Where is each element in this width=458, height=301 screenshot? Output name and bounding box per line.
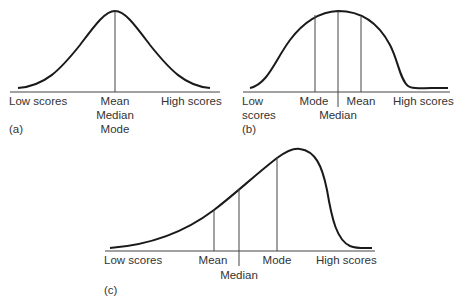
panel-c-skewed-curve [110, 149, 372, 248]
panel-b-mean-label: Mean [347, 95, 376, 108]
panel-c-graph [105, 149, 375, 266]
panel-c-tag: (c) [104, 284, 117, 297]
panel-b-tag: (b) [242, 123, 256, 136]
panel-b-low-label-line2: scores [242, 109, 276, 122]
panel-b-low-label-line1: Low [242, 95, 263, 108]
panel-a-low-label: Low scores [9, 95, 67, 108]
panel-b-median-label: Median [319, 109, 357, 122]
panel-b-skewed-curve [250, 11, 448, 88]
panel-b-high-label: High scores [393, 95, 454, 108]
panel-a-mode-label: Mode [101, 123, 130, 136]
panel-a-median-label: Median [96, 109, 134, 122]
panel-a-normal-curve [18, 11, 210, 88]
distribution-diagrams [0, 0, 458, 301]
panel-a-tag: (a) [9, 123, 23, 136]
panel-c-low-label: Low scores [104, 254, 162, 267]
panel-c-high-label: High scores [316, 254, 377, 267]
panel-c-mode-label: Mode [263, 254, 292, 267]
panel-a-graph [10, 11, 220, 92]
panel-b-graph [243, 11, 450, 107]
panel-b-mode-label: Mode [300, 95, 329, 108]
panel-c-mean-label: Mean [199, 254, 228, 267]
panel-a-mean-label: Mean [101, 95, 130, 108]
panel-c-median-label: Median [220, 269, 258, 282]
panel-a-high-label: High scores [161, 95, 222, 108]
